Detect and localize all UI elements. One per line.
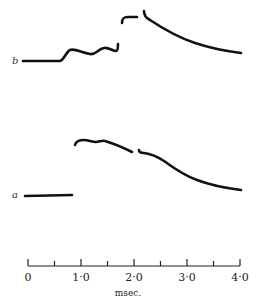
x-axis-unit: msec.: [115, 288, 142, 298]
trace-a-decay: [139, 150, 241, 190]
trace-b-decay: [144, 11, 241, 53]
x-tick-label: 4·0: [231, 271, 249, 284]
trace-b: [23, 44, 118, 61]
trace-a-plateau: [75, 140, 132, 152]
x-tick-label: 1·0: [72, 271, 90, 284]
x-tick-label: 2·0: [125, 271, 143, 284]
trace-a-baseline: [25, 195, 72, 196]
trace-b-label: b: [12, 55, 18, 66]
x-tick-label: 3·0: [178, 271, 196, 284]
trace-b-plateau: [122, 17, 137, 23]
x-axis-ticks: [28, 259, 240, 266]
figure: b a 0 1·0 2·0 3·0 4·0 msec.: [0, 0, 257, 304]
trace-a-label: a: [12, 189, 18, 200]
x-tick-label: 0: [25, 271, 32, 284]
